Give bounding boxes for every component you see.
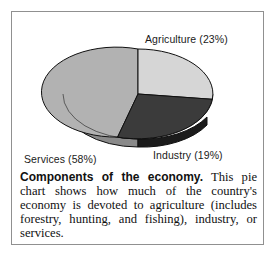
pie-label-agriculture: Agriculture (23%) xyxy=(145,33,228,45)
pie-label-industry: Industry (19%) xyxy=(153,149,223,161)
pie-chart: Agriculture (23%) Industry (19%) Service… xyxy=(12,12,265,164)
pie-slice-agriculture xyxy=(138,49,213,99)
caption-lead: Components of the economy. xyxy=(20,170,203,184)
pie-label-services: Services (58%) xyxy=(24,153,97,165)
figure-frame: Agriculture (23%) Industry (19%) Service… xyxy=(11,11,264,245)
figure-caption: Components of the economy. This pie char… xyxy=(20,170,257,240)
